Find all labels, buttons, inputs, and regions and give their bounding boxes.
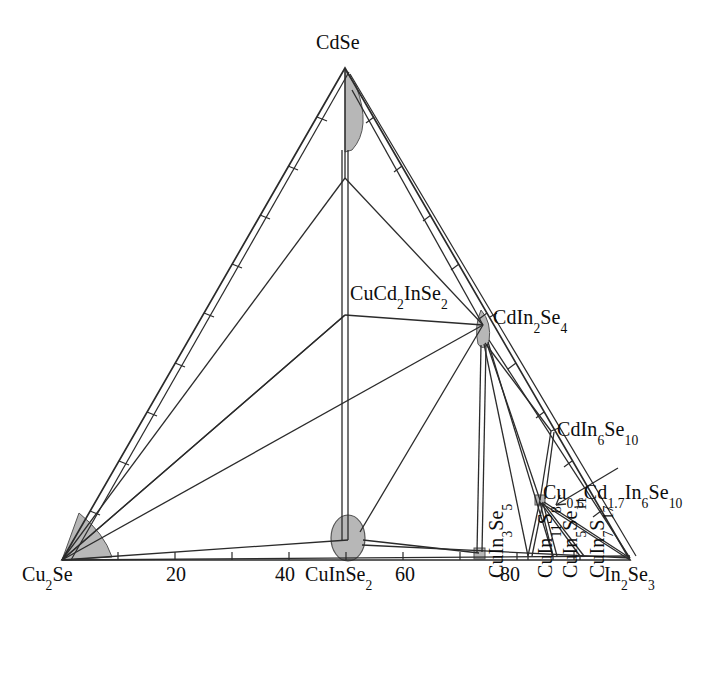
axis-tick-40: 40	[275, 564, 295, 584]
label-cdse: CdSe	[316, 32, 360, 52]
label-cuin11s8: CuIn11S8	[535, 506, 555, 578]
label-cuinse2: CuInSe2	[305, 564, 373, 584]
label-cuin5se11: CuIn5Se11	[560, 497, 580, 578]
label-cuin3se5: CuIn3Se5	[486, 504, 506, 578]
label-in2se3: In2Se3	[604, 564, 655, 584]
shaded-regions	[62, 70, 545, 561]
axis-tick-20: 20	[166, 564, 186, 584]
left-edge-ticks	[90, 117, 327, 515]
label-cdin6se10: CdIn6Se10	[557, 419, 638, 439]
label-cdin2se4: CdIn2Se4	[493, 307, 567, 327]
label-cucd2inse2: CuCd2InSe2	[350, 283, 448, 303]
label-cu2se: Cu2Se	[22, 564, 73, 584]
ternary-phase-diagram: CdSe Cu2Se In2Se3 20 40 CuInSe2 60 80 Cu…	[0, 0, 728, 678]
axis-tick-60: 60	[395, 564, 415, 584]
label-cuin7s17: CuIn7S17	[587, 506, 607, 578]
